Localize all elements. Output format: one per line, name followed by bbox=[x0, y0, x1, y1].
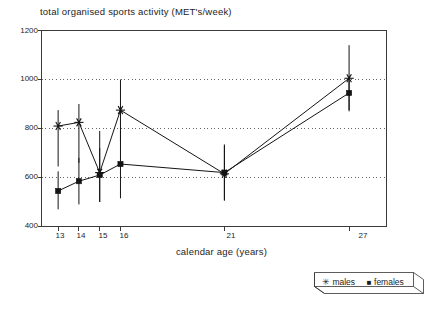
chart-figure: total organised sports activity (MET's/w… bbox=[0, 0, 443, 316]
legend-male-label: males bbox=[332, 277, 355, 287]
data-series bbox=[54, 45, 354, 209]
legend-male-marker-icon: ✳ bbox=[322, 277, 330, 287]
axis-ticks bbox=[38, 31, 350, 231]
legend-female-marker-icon: ■ bbox=[367, 278, 372, 287]
legend-female-label: females bbox=[374, 277, 404, 287]
grid-lines bbox=[42, 80, 387, 178]
plot-area bbox=[0, 0, 443, 316]
plot-frame bbox=[42, 31, 387, 227]
legend-entries: ✳ males ■ females bbox=[322, 277, 404, 287]
